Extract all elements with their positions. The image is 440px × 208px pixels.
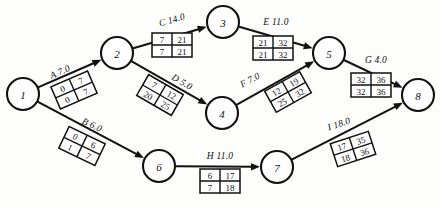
arrow-head-icon [303,42,313,49]
node-label-4: 4 [219,108,225,120]
node-7[interactable]: 7 [261,151,293,183]
node-label-3: 3 [219,17,226,29]
arrow-head-icon [251,163,260,170]
node-label-7: 7 [274,162,280,174]
activity-label-F: F 7.0 [237,71,261,90]
table-cell-E-ls: 21 [259,50,268,60]
arrow-head-icon [198,97,208,105]
table-cell-G-ls: 32 [357,87,366,97]
activity-label-H: H 11.0 [206,151,233,161]
node-label-6: 6 [156,161,162,173]
activity-label-E: E 11.0 [262,17,288,27]
table-cell-H-es: 6 [208,171,213,181]
table-cell-E-ef: 32 [279,38,288,48]
arrow-head-icon [197,26,207,33]
table-cell-H-lf: 18 [226,183,236,193]
table-cell-G-ef: 36 [377,75,387,85]
arrow-head-icon [393,81,403,88]
table-cell-C-es: 7 [160,35,165,45]
node-label-2: 2 [114,48,120,60]
table-cell-E-lf: 32 [279,50,288,60]
cpm-network-diagram: 12345678 0707061772172171220252132213212… [0,0,440,208]
table-cell-C-lf: 21 [178,47,187,57]
arrow-head-icon [134,151,144,158]
table-cell-E-es: 21 [259,38,268,48]
table-cell-H-ls: 7 [208,183,213,193]
node-1[interactable]: 1 [7,78,39,110]
node-4[interactable]: 4 [206,97,238,129]
arrow-head-icon [393,103,403,110]
activity-table-H: 617718 [200,169,240,193]
node-6[interactable]: 6 [143,150,175,182]
table-cell-C-ef: 21 [178,35,187,45]
node-3[interactable]: 3 [207,6,239,38]
node-label-1: 1 [20,89,26,101]
node-2[interactable]: 2 [101,37,133,69]
activity-table-G: 32363236 [351,73,391,97]
node-label-5: 5 [326,48,332,60]
network-canvas: 12345678 0707061772172171220252132213212… [0,0,440,208]
node-8[interactable]: 8 [402,79,434,111]
table-cell-G-lf: 36 [377,87,387,97]
table-cell-C-ls: 7 [160,47,165,57]
activity-table-E: 21322132 [253,36,293,60]
table-cell-G-es: 32 [357,75,366,85]
table-cell-H-ef: 17 [226,171,236,181]
activity-label-C: C 14.0 [158,12,186,29]
node-label-8: 8 [415,90,421,102]
arrow-head-icon [92,60,102,67]
activity-table-C: 721721 [152,33,192,57]
activity-table-F: 12192532 [265,72,312,112]
activity-label-G: G 4.0 [365,55,387,65]
node-5[interactable]: 5 [313,37,345,69]
arrow-head-icon [305,61,315,69]
